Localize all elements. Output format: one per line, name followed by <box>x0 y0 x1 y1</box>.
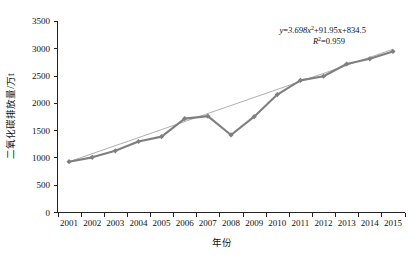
chart-canvas: 0 500 1000 1500 2000 2500 3000 3500 2001… <box>0 0 413 257</box>
x-tick-label: 2011 <box>292 218 310 228</box>
x-tick-label: 2002 <box>83 218 101 228</box>
x-tick-label: 2008 <box>222 218 241 228</box>
data-point-marker <box>66 159 71 164</box>
y-tick-label: 1500 <box>32 126 51 136</box>
y-tick-label: 2000 <box>32 98 51 108</box>
r-squared-annotation: R2=0.959 <box>312 36 345 46</box>
x-axis-ticks <box>59 213 406 217</box>
y-axis-title: 二氧化碳排放量/万t <box>5 73 16 159</box>
chart-figure: 0 500 1000 1500 2000 2500 3000 3500 2001… <box>0 0 413 257</box>
y-tick-label: 1000 <box>32 153 51 163</box>
y-tick-label: 500 <box>37 180 51 190</box>
x-tick-label: 2001 <box>60 218 78 228</box>
y-tick-label: 2500 <box>32 71 51 81</box>
x-axis-title: 年份 <box>212 237 232 248</box>
x-axis-tick-labels: 2001200220032004200520062007200820092010… <box>60 218 402 228</box>
x-tick-label: 2006 <box>176 218 195 228</box>
y-tick-label: 0 <box>46 208 51 218</box>
x-tick-label: 2014 <box>361 218 380 228</box>
x-tick-label: 2005 <box>153 218 172 228</box>
x-tick-label: 2007 <box>199 218 218 228</box>
x-tick-label: 2010 <box>268 218 287 228</box>
x-tick-label: 2013 <box>338 218 357 228</box>
x-tick-label: 2004 <box>129 218 148 228</box>
x-tick-label: 2009 <box>245 218 264 228</box>
regression-equation-annotation: y=3.698x2+91.95x+834.5 <box>278 25 366 35</box>
x-tick-label: 2015 <box>384 218 403 228</box>
y-axis-tick-labels: 0 500 1000 1500 2000 2500 3000 3500 <box>32 16 51 217</box>
x-tick-label: 2003 <box>106 218 125 228</box>
y-tick-label: 3000 <box>32 44 51 54</box>
data-point-marker <box>90 155 95 160</box>
series-markers <box>66 49 395 164</box>
x-tick-label: 2012 <box>315 218 333 228</box>
y-axis-ticks <box>54 21 58 212</box>
y-tick-label: 3500 <box>32 16 51 26</box>
